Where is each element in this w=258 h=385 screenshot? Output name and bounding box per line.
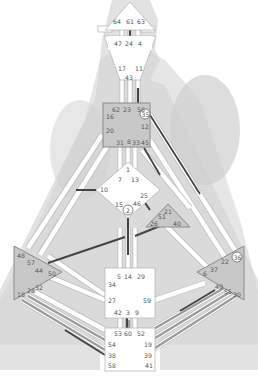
gate-10: 10: [100, 186, 108, 193]
gate-60: 60: [124, 330, 132, 337]
gate-2: 2: [126, 207, 130, 214]
gate-9: 9: [135, 309, 139, 316]
gate-35: 35: [142, 111, 150, 118]
gate-55: 55: [224, 288, 232, 295]
gate-51: 51: [158, 213, 166, 220]
gate-32: 32: [35, 284, 43, 291]
gate-16: 16: [106, 113, 114, 120]
gate-37: 37: [210, 266, 218, 273]
gate-41: 41: [145, 362, 153, 369]
gate-48: 48: [17, 252, 25, 259]
gate-54: 54: [108, 341, 116, 348]
gate-62: 62: [112, 106, 120, 113]
gate-24: 24: [125, 40, 133, 47]
gate-11: 11: [135, 65, 143, 72]
gate-27: 27: [108, 297, 116, 304]
gate-36: 36: [234, 254, 242, 261]
gate-14: 14: [124, 273, 132, 280]
gate-17: 17: [118, 65, 126, 72]
gate-15: 15: [115, 201, 123, 208]
gate-40: 40: [173, 220, 181, 227]
gate-38: 38: [108, 352, 116, 359]
gate-45: 45: [141, 139, 149, 146]
gate-29: 29: [137, 273, 145, 280]
gate-53: 53: [114, 330, 122, 337]
gate-13: 13: [131, 176, 139, 183]
gate-52: 52: [137, 330, 145, 337]
gate-64: 64: [113, 18, 121, 25]
gate-3: 3: [126, 309, 130, 316]
gate-18: 18: [17, 291, 25, 298]
gate-1: 1: [126, 166, 130, 173]
gate-5: 5: [117, 273, 121, 280]
gate-28: 28: [27, 287, 35, 294]
gate-7: 7: [118, 176, 122, 183]
gate-30: 30: [233, 291, 241, 298]
gate-33: 33: [132, 139, 140, 146]
gate-4: 4: [138, 40, 142, 47]
gate-59: 59: [143, 297, 151, 304]
gate-47: 47: [114, 40, 122, 47]
gate-61: 61: [126, 18, 134, 25]
gate-25: 25: [140, 192, 148, 199]
gate-20: 20: [106, 127, 114, 134]
gate-19: 19: [144, 341, 152, 348]
gate-43: 43: [125, 74, 133, 81]
gate-50: 50: [48, 270, 56, 277]
gate-6: 6: [203, 270, 207, 277]
gate-44: 44: [35, 267, 43, 274]
gate-22: 22: [221, 258, 229, 265]
gate-42: 42: [114, 309, 122, 316]
gate-39: 39: [144, 352, 152, 359]
gate-58: 58: [108, 362, 116, 369]
bodygraph-chart: 64 61 63 47 24 4 17 11 43 62 23 56 16 35…: [0, 0, 258, 385]
gate-26: 26: [150, 220, 158, 227]
gate-12: 12: [141, 123, 149, 130]
gate-49: 49: [215, 283, 223, 290]
gate-23: 23: [123, 106, 131, 113]
gate-46: 46: [133, 200, 141, 207]
gate-31: 31: [116, 139, 124, 146]
gate-63: 63: [137, 18, 145, 25]
gate-57: 57: [27, 259, 35, 266]
gate-8: 8: [127, 138, 131, 145]
gate-34: 34: [108, 281, 116, 288]
